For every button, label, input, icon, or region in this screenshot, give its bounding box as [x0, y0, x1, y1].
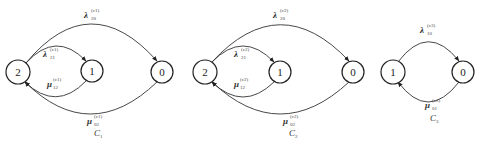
edge-lambda-20: [212, 25, 349, 62]
svg-text:μ: μ: [86, 116, 92, 126]
label-lambda-21: λ (c2) 21: [233, 47, 249, 60]
svg-text:2: 2: [202, 66, 208, 78]
svg-text:12: 12: [240, 85, 246, 90]
svg-text:1: 1: [89, 65, 95, 77]
svg-text:02: 02: [290, 122, 296, 127]
panel-c1: 2 1 0 λ (c1) 20 λ (c1) 21 μ (c1) 12 μ (c…: [6, 8, 173, 139]
svg-text:20: 20: [280, 16, 286, 21]
svg-text:2: 2: [15, 66, 21, 78]
svg-text:λ: λ: [233, 49, 238, 59]
label-lambda-20: λ (c2) 20: [272, 8, 288, 21]
svg-text:1: 1: [100, 134, 103, 139]
svg-text:0: 0: [159, 66, 165, 78]
node-0: 0: [342, 61, 364, 83]
svg-text:λ: λ: [419, 25, 424, 35]
svg-text:μ: μ: [282, 116, 288, 126]
svg-text:21: 21: [50, 55, 56, 60]
svg-text:(c2): (c2): [241, 47, 249, 52]
svg-text:3: 3: [436, 119, 439, 124]
svg-text:μ: μ: [233, 79, 239, 89]
svg-text:2: 2: [295, 134, 298, 139]
svg-text:λ: λ: [42, 49, 47, 59]
label-mu-12: μ (c2) 12: [233, 77, 248, 90]
edge-mu-02: [212, 82, 349, 114]
panel-c3: 1 0 λ (c3) 10 μ (c3) 01 C 3: [381, 23, 474, 124]
label-mu-02: μ (c2) 02: [282, 114, 298, 127]
svg-text:(c2): (c2): [240, 77, 248, 82]
svg-text:(c2): (c2): [280, 8, 288, 13]
label-lambda-10: λ (c3) 10: [419, 23, 435, 36]
svg-text:21: 21: [241, 55, 247, 60]
svg-text:(c1): (c1): [91, 8, 99, 13]
svg-text:20: 20: [91, 16, 97, 21]
svg-text:μ: μ: [46, 79, 52, 89]
svg-text:(c1): (c1): [94, 114, 102, 119]
panel-c2: 2 1 0 λ (c2) 20 λ (c2) 21 μ (c2) 12 μ (c…: [193, 8, 364, 139]
caption-c1: C 1: [94, 128, 103, 139]
caption-c3: C 3: [430, 113, 439, 124]
node-2: 2: [193, 60, 217, 84]
label-mu-12: μ (c1) 12: [46, 77, 61, 90]
label-mu-01: μ (c3) 01: [424, 98, 440, 111]
svg-text:12: 12: [53, 85, 59, 90]
svg-text:(c1): (c1): [53, 77, 61, 82]
label-lambda-21: λ (c1) 21: [42, 47, 58, 60]
node-1: 1: [269, 61, 291, 83]
edge-mu-01: [398, 82, 459, 102]
node-1: 1: [81, 60, 103, 82]
caption-c2: C 2: [289, 128, 298, 139]
svg-text:0: 0: [350, 66, 356, 78]
svg-text:1: 1: [277, 66, 283, 78]
svg-text:1: 1: [390, 66, 396, 78]
state-transition-diagram: 2 1 0 λ (c1) 20 λ (c1) 21 μ (c1) 12 μ (c…: [0, 0, 481, 144]
node-1: 1: [381, 60, 405, 84]
node-2: 2: [6, 60, 30, 84]
node-0: 0: [151, 61, 173, 83]
node-0: 0: [452, 61, 474, 83]
edge-lambda-10: [398, 42, 459, 62]
label-mu-02: μ (c1) 02: [86, 114, 102, 127]
svg-text:01: 01: [432, 106, 438, 111]
svg-text:02: 02: [94, 122, 100, 127]
svg-text:10: 10: [427, 31, 433, 36]
svg-text:(c2): (c2): [290, 114, 298, 119]
svg-text:(c3): (c3): [432, 98, 440, 103]
svg-text:λ: λ: [272, 10, 277, 20]
svg-text:(c3): (c3): [427, 23, 435, 28]
svg-text:(c1): (c1): [50, 47, 58, 52]
label-lambda-20: λ (c1) 20: [83, 8, 99, 21]
svg-text:λ: λ: [83, 10, 88, 20]
edge-mu-02: [25, 82, 157, 114]
svg-text:μ: μ: [424, 100, 430, 110]
svg-text:0: 0: [460, 66, 466, 78]
